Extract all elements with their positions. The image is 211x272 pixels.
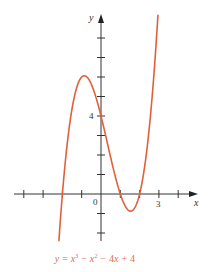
- x-tick-label-3: 3: [156, 199, 161, 209]
- function-caption: y = x3 − x2 − 4x + 4: [0, 253, 190, 264]
- curve-cubic: [59, 15, 158, 240]
- y-tick-label-4: 4: [89, 111, 94, 121]
- caption-constant: + 4: [119, 253, 135, 264]
- y-axis-arrow-icon: [98, 14, 104, 23]
- y-axis-label: y: [88, 12, 94, 23]
- caption-term: − 4: [98, 253, 114, 264]
- caption-eq: =: [59, 253, 70, 264]
- cubic-function-graph: x y 0 3 4: [0, 0, 211, 272]
- x-axis-label: x: [193, 197, 199, 208]
- origin-label: 0: [93, 197, 98, 207]
- caption-minus: −: [79, 253, 90, 264]
